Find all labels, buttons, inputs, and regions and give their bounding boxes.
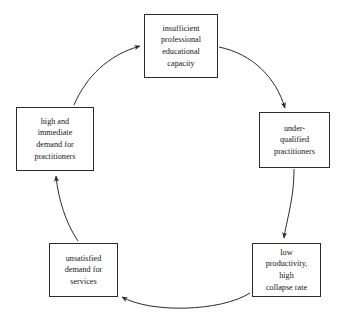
edge-botright-to-botleft (122, 293, 250, 308)
node-label: unsatisfied demand for services (62, 253, 106, 288)
node-label: low productivity, high collapse rate (263, 247, 311, 294)
node-unsatisfied-demand: unsatisfied demand for services (49, 243, 118, 297)
node-high-immediate-demand: high and immediate demand for practition… (16, 107, 94, 171)
node-low-productivity: low productivity, high collapse rate (252, 243, 321, 297)
edge-left-to-top (74, 46, 140, 105)
node-under-qualified-practitioners: under- qualified practitioners (259, 112, 330, 168)
node-label: high and immediate demand for practition… (32, 116, 79, 163)
node-label: under- qualified practitioners (271, 123, 318, 158)
node-insufficient-capacity: insufficient professional educational ca… (144, 14, 218, 78)
edge-top-to-right (219, 47, 285, 108)
cycle-diagram: insufficient professional educational ca… (0, 0, 348, 326)
node-label: insufficient professional educational ca… (158, 23, 204, 70)
edge-botleft-to-left (56, 176, 78, 241)
edge-right-to-botright (284, 169, 294, 238)
